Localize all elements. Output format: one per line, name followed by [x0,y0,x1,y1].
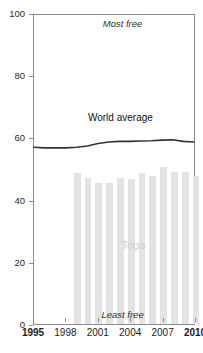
x-tick-label: 2004 [119,327,141,339]
line-series-world-average [34,15,194,324]
x-tick-mark [98,318,99,322]
economic-freedom-chart: Economic freedom over time 020406080100 … [0,0,203,353]
x-tick-label: 2007 [151,327,173,339]
x-tick-mark [163,318,164,322]
x-tick-label: 2010 [184,327,203,339]
y-tick-label: 80 [14,72,25,80]
world-average-polyline [34,140,194,148]
x-tick-mark [195,318,196,322]
y-tick-mark [29,325,33,326]
togo-label: Togo [121,239,145,251]
x-tick-mark [33,318,34,322]
x-tick-label: 1998 [54,327,76,339]
axis-annotation: Most free [103,18,143,29]
y-tick-label: 20 [14,259,25,267]
axis-annotation: Least free [101,309,143,320]
y-tick-label: 100 [9,10,25,18]
y-tick-label: 60 [14,134,25,142]
x-tick-label: 2001 [87,327,109,339]
plot-area: Most freeLeast freeWorld averageTogo [33,14,195,325]
x-tick-mark [65,318,66,322]
y-tick-label: 40 [14,197,25,205]
x-tick-mark [130,318,131,322]
x-tick-label: 1995 [22,327,44,339]
y-axis: 020406080100 [0,0,33,353]
x-axis: 199519982001200420072010 [0,327,203,353]
world-average-label: World average [88,112,153,123]
